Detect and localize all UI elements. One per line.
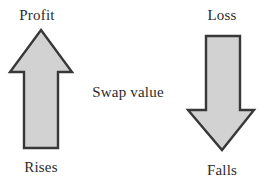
- swap-value-diagram: Profit Rises Swap value Loss Falls: [0, 0, 259, 185]
- arrow-up-icon: [7, 27, 75, 151]
- arrow-down-icon: [185, 33, 257, 153]
- swap-value-caption: Swap value: [92, 85, 164, 100]
- loss-label: Loss: [207, 8, 236, 23]
- profit-label: Profit: [19, 8, 54, 23]
- rises-label: Rises: [24, 160, 58, 175]
- falls-label: Falls: [207, 163, 237, 178]
